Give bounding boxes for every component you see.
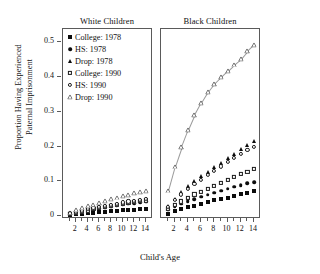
x-axis-tick-white	[122, 218, 123, 222]
marker-open-triangle	[231, 62, 236, 67]
x-axis-tick-white	[139, 218, 140, 221]
marker-open-square	[192, 192, 196, 196]
marker-open-square	[232, 175, 236, 179]
legend-item: Drop: 1990	[66, 91, 148, 103]
marker-open-circle	[179, 192, 183, 196]
legend-label: Drop: 1990	[75, 93, 113, 102]
marker-filled-circle	[226, 187, 230, 191]
marker-open-square	[212, 184, 216, 188]
marker-filled-square	[192, 204, 196, 208]
marker-filled-square	[121, 208, 125, 212]
marker-open-triangle	[143, 189, 148, 194]
x-axis-tick-black	[227, 218, 228, 222]
marker-filled-triangle	[252, 139, 256, 143]
x-axis-tick-black	[167, 218, 168, 221]
marker-filled-square	[144, 207, 148, 211]
marker-open-triangle	[251, 43, 256, 48]
marker-open-circle	[245, 148, 249, 152]
marker-filled-triangle	[245, 143, 249, 147]
legend-item: HS: 1990	[66, 79, 148, 91]
marker-open-triangle	[97, 200, 102, 205]
marker-filled-square	[206, 200, 210, 204]
x-axis-tick-black	[253, 218, 254, 222]
marker-open-circle	[239, 151, 243, 155]
marker-filled-circle	[239, 183, 243, 187]
marker-filled-circle	[206, 193, 210, 197]
y-axis-tick	[57, 76, 61, 77]
legend-label: HS: 1978	[75, 45, 106, 54]
plot-area-black	[161, 29, 259, 217]
marker-open-triangle	[114, 195, 119, 200]
legend-label: HS: 1990	[75, 81, 106, 90]
marker-open-circle	[219, 164, 223, 168]
marker-open-triangle	[126, 192, 131, 197]
x-axis-tick-black	[213, 218, 214, 222]
x-axis-tick-black	[220, 218, 221, 221]
marker-open-triangle	[225, 68, 230, 73]
legend-marker	[66, 67, 75, 79]
x-axis-tick-white	[98, 218, 99, 222]
marker-open-square	[239, 172, 243, 176]
x-axis-tick-black	[193, 218, 194, 221]
y-axis-tick	[57, 111, 61, 112]
marker-open-square	[219, 181, 223, 185]
x-axis-tick-label-black: 14	[244, 224, 262, 233]
marker-filled-square	[68, 35, 72, 39]
marker-filled-square	[138, 207, 142, 211]
marker-open-triangle	[79, 206, 84, 211]
marker-filled-square	[103, 210, 107, 214]
marker-filled-square	[173, 209, 177, 213]
x-axis-tick-white	[92, 218, 93, 221]
x-axis-tick-white	[110, 218, 111, 222]
marker-open-square	[225, 178, 229, 182]
marker-open-triangle	[245, 49, 250, 54]
y-axis-tick	[57, 41, 61, 42]
panel-title-white: White Children	[62, 16, 152, 26]
marker-open-circle	[192, 182, 196, 186]
marker-open-square	[206, 186, 210, 190]
marker-filled-square	[199, 202, 203, 206]
panel-title-black: Black Children	[160, 16, 260, 26]
marker-filled-square	[132, 208, 136, 212]
marker-open-circle	[212, 169, 216, 173]
x-axis-tick-white	[133, 218, 134, 222]
x-axis-tick-black	[233, 218, 234, 221]
y-axis-tick	[57, 215, 61, 216]
marker-open-triangle	[218, 75, 223, 80]
marker-open-triangle	[165, 188, 170, 193]
legend-marker	[66, 55, 75, 67]
marker-open-triangle	[67, 95, 72, 100]
marker-filled-square	[179, 207, 183, 211]
x-axis-tick-black	[187, 218, 188, 222]
marker-open-square	[186, 196, 190, 200]
x-axis-tick-white	[87, 218, 88, 222]
marker-filled-triangle	[68, 59, 72, 63]
plot-panel-black	[160, 28, 260, 218]
legend-marker	[66, 79, 75, 91]
marker-filled-square	[212, 198, 216, 202]
marker-open-square	[252, 167, 256, 171]
y-axis-tick	[57, 146, 61, 147]
x-axis-tick-black	[240, 218, 241, 222]
marker-open-circle	[206, 173, 210, 177]
marker-filled-square	[126, 208, 130, 212]
marker-filled-circle	[186, 200, 190, 204]
marker-open-triangle	[179, 145, 184, 150]
marker-filled-circle	[252, 180, 256, 184]
marker-open-square	[245, 169, 249, 173]
x-axis-tick-white	[81, 218, 82, 221]
marker-open-circle	[232, 156, 236, 160]
marker-filled-square	[252, 189, 256, 193]
marker-open-triangle	[198, 101, 203, 106]
legend-marker	[66, 31, 75, 43]
marker-filled-circle	[68, 47, 72, 51]
marker-open-triangle	[120, 194, 125, 199]
x-axis-tick-black	[246, 218, 247, 221]
marker-filled-square	[232, 194, 236, 198]
legend-marker	[66, 91, 75, 103]
marker-filled-square	[109, 209, 113, 213]
x-axis-tick-black	[180, 218, 181, 221]
x-axis-tick-white	[104, 218, 105, 221]
x-axis-label: Child's Age	[60, 252, 260, 262]
marker-open-triangle	[238, 57, 243, 62]
